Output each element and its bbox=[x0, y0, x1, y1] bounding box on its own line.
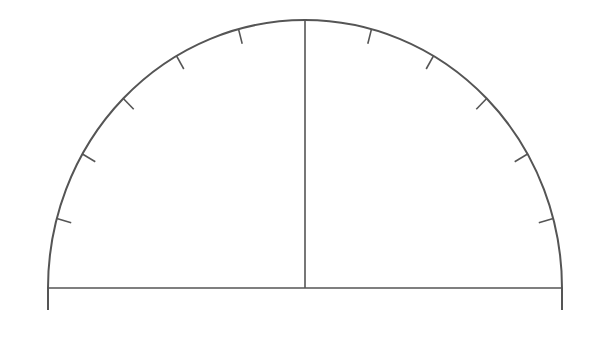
tick-mark bbox=[177, 56, 184, 69]
tick-mark bbox=[426, 56, 433, 69]
tick-mark bbox=[476, 99, 486, 110]
tick-mark bbox=[539, 219, 553, 223]
tick-mark bbox=[239, 29, 243, 44]
tick-mark bbox=[57, 219, 71, 223]
tick-mark bbox=[515, 154, 528, 162]
tick-mark bbox=[123, 99, 133, 110]
tick-mark bbox=[82, 154, 95, 162]
tick-mark bbox=[368, 29, 372, 44]
protractor-diagram bbox=[0, 0, 594, 345]
